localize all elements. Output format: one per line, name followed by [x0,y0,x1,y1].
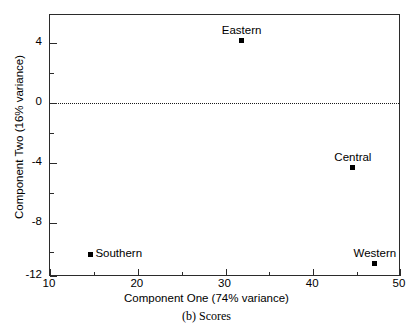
x-tick-label: 10 [29,278,69,290]
y-tick-major [50,163,57,164]
data-point-label: Southern [95,248,142,260]
y-tick-minor [50,252,54,253]
plot-area: Eastern Central Western Southern [49,14,400,276]
x-tick-minor [94,272,95,276]
x-tick-label: 30 [205,278,245,290]
x-tick-label: 50 [379,278,413,290]
x-tick-major [138,269,139,276]
y-tick-major [50,103,57,104]
data-marker [350,165,355,170]
data-marker [372,261,377,266]
data-marker [239,38,244,43]
y-tick-minor [50,133,54,134]
x-tick-label: 20 [117,278,157,290]
x-tick-minor [269,272,270,276]
y-tick-minor [50,193,54,194]
x-tick-minor [357,272,358,276]
x-tick-major [400,269,401,276]
zero-reference-line [50,103,399,104]
figure-caption: (b) Scores [0,309,413,324]
x-tick-major [50,269,51,276]
x-tick-major [226,269,227,276]
data-marker [88,252,93,257]
x-axis-title: Component One (74% variance) [0,292,413,304]
data-point-label: Central [334,152,371,164]
y-axis-title: Component Two (16% variance) [13,22,25,252]
y-tick-major [50,223,57,224]
x-tick-minor [182,272,183,276]
x-tick-label: 40 [292,278,332,290]
y-tick-major [50,43,57,44]
data-point-label: Eastern [222,25,262,37]
x-tick-major [313,269,314,276]
scatter-plot-figure: Eastern Central Western Southern 4 0 -4 … [0,0,413,326]
y-tick-minor [50,73,54,74]
data-point-label: Western [353,248,396,260]
